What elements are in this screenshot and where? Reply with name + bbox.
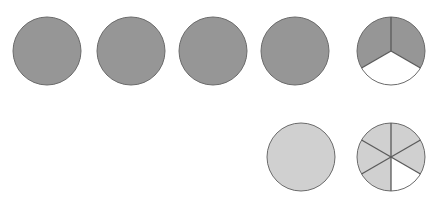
top-row-group — [0, 0, 442, 203]
divider-line-2 — [391, 51, 420, 68]
divider-line-diagonal-2 — [362, 140, 421, 174]
sector-shaded-2 — [357, 17, 391, 68]
sector-shaded-2 — [357, 140, 391, 174]
divider-line-diagonal-1 — [362, 140, 421, 174]
circle-outline — [357, 17, 425, 85]
whole-circle-shape — [97, 17, 165, 85]
whole-circle-shape — [179, 17, 247, 85]
whole-circle-shape — [267, 123, 335, 191]
fraction-diagram-canvas — [0, 0, 442, 203]
sector-shaded-1 — [391, 17, 425, 68]
sector-empty-1 — [362, 51, 421, 85]
sector-shaded-1 — [362, 123, 391, 157]
divider-line-3 — [362, 51, 391, 68]
top-circle-5 — [356, 16, 426, 86]
bottom-row-group — [0, 0, 442, 203]
sector-shaded-3 — [362, 157, 391, 191]
sector-shaded-4 — [391, 140, 425, 174]
bottom-circle-2 — [356, 122, 426, 192]
sector-shaded-5 — [391, 123, 420, 157]
top-circle-1 — [12, 16, 82, 86]
top-circle-2 — [96, 16, 166, 86]
whole-circle-shape — [261, 17, 329, 85]
bottom-circle-1 — [266, 122, 336, 192]
sector-empty-1 — [391, 157, 420, 191]
whole-circle-shape — [13, 17, 81, 85]
top-circle-4 — [260, 16, 330, 86]
circle-outline — [357, 123, 425, 191]
top-circle-3 — [178, 16, 248, 86]
